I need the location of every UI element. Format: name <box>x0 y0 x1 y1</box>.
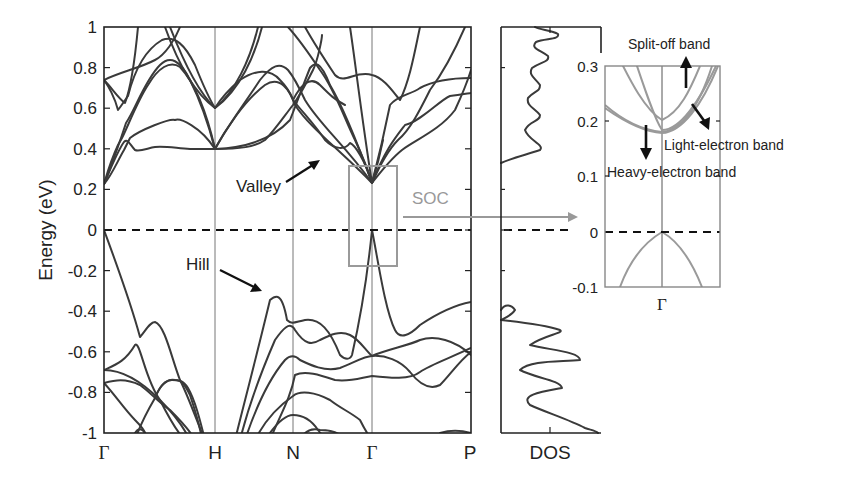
xtick-label: Γ <box>99 442 110 463</box>
inset-ytick-label: 0.3 <box>577 58 598 75</box>
xtick-label: P <box>464 442 477 463</box>
xtick-label: Γ <box>367 442 378 463</box>
valley-annotation: Valley <box>236 177 282 196</box>
soc-arrowhead-icon <box>568 212 578 222</box>
ytick-label: 1 <box>88 18 97 37</box>
inset-ytick-label: -0.1 <box>572 279 598 296</box>
split-off-band-label: Split-off band <box>628 36 710 52</box>
dos-axis-label: DOS <box>529 442 570 463</box>
inset-ytick-label: 0.2 <box>577 113 598 130</box>
ytick-label: -0.6 <box>68 343 97 362</box>
ytick-label: -0.4 <box>68 302 97 321</box>
x-tick-labels: Γ H N Γ P <box>99 442 477 463</box>
valley-arrowhead-icon <box>308 160 320 170</box>
inset-x-label: Γ <box>657 295 667 314</box>
y-tick-labels: 1 0.8 0.6 0.4 0.2 0 -0.2 -0.4 -0.6 -0.8 … <box>68 18 97 443</box>
hill-annotation: Hill <box>186 255 210 274</box>
xtick-label: H <box>208 442 222 463</box>
band-lines <box>104 27 471 440</box>
ytick-label: 0.6 <box>73 99 97 118</box>
inset-ytick-label: 0.1 <box>577 168 598 185</box>
ytick-label: 0.2 <box>73 180 97 199</box>
ytick-label: 0.8 <box>73 59 97 78</box>
ytick-label: 0.4 <box>73 140 97 159</box>
inset-ytick-label: 0 <box>590 224 598 241</box>
xtick-label: N <box>286 442 300 463</box>
soc-label: SOC <box>412 189 449 208</box>
hill-arrowhead-icon <box>250 283 262 292</box>
soc-inset-panel: 0.3 0.2 0.1 0 -0.1 Γ Split-off band Ligh… <box>572 36 784 314</box>
y-axis-label: Energy (eV) <box>35 179 56 280</box>
ytick-label: -0.2 <box>68 262 97 281</box>
band-structure-figure: 1 0.8 0.6 0.4 0.2 0 -0.2 -0.4 -0.6 -0.8 … <box>0 0 843 486</box>
light-electron-band-label: Light-electron band <box>664 137 784 153</box>
hill-arrow-icon <box>220 270 256 288</box>
ytick-label: -1 <box>82 424 97 443</box>
ytick-label: 0 <box>88 221 97 240</box>
ytick-label: -0.8 <box>68 383 97 402</box>
band-structure-panel: 1 0.8 0.6 0.4 0.2 0 -0.2 -0.4 -0.6 -0.8 … <box>35 18 578 463</box>
heavy-electron-band-label: Heavy-electron band <box>607 164 736 180</box>
